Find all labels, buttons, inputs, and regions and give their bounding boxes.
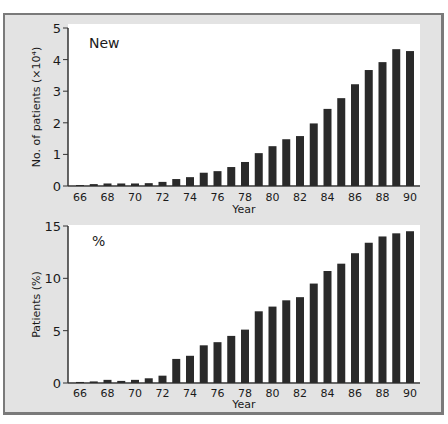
x-tick-label: 72	[156, 387, 170, 400]
bar	[392, 233, 400, 383]
bar	[255, 311, 263, 383]
x-tick-label: 72	[156, 191, 170, 204]
panel-label: %	[92, 233, 105, 249]
bar	[172, 359, 180, 383]
bar	[351, 253, 359, 383]
bar	[324, 271, 332, 383]
bar	[296, 297, 304, 383]
bar	[337, 98, 345, 186]
x-axis-title: Year	[231, 398, 256, 411]
bar	[186, 356, 194, 383]
bar	[392, 49, 400, 186]
bar	[145, 378, 153, 383]
bar	[241, 162, 249, 186]
x-tick-label: 86	[348, 191, 362, 204]
y-axis-title: Patients (%)	[30, 271, 43, 338]
bar	[131, 183, 139, 186]
x-tick-label: 82	[293, 387, 307, 400]
bar	[200, 173, 208, 186]
x-tick-label: 66	[73, 387, 87, 400]
bar	[337, 264, 345, 383]
y-axis-title: No. of patients (×10⁴)	[30, 47, 43, 167]
bar	[172, 179, 180, 186]
x-tick-label: 68	[101, 387, 115, 400]
x-tick-label: 88	[376, 191, 390, 204]
x-tick-label: 90	[403, 387, 417, 400]
x-tick-label: 84	[321, 191, 335, 204]
bar	[310, 123, 318, 186]
y-tick-label: 0	[53, 179, 61, 194]
y-tick-label: 10	[44, 271, 61, 286]
bar	[255, 153, 263, 186]
x-tick-label: 76	[211, 191, 225, 204]
y-tick-label: 3	[53, 84, 61, 99]
bar	[365, 70, 373, 186]
bar	[227, 167, 235, 186]
bar	[310, 284, 318, 383]
new-patients-chart: 01234566687072747678808284868890YearNo. …	[30, 21, 420, 216]
bar	[214, 342, 222, 383]
x-tick-label: 76	[211, 387, 225, 400]
bar	[186, 177, 194, 186]
x-tick-label: 88	[376, 387, 390, 400]
bar	[76, 185, 84, 186]
chart-canvas: 01234566687072747678808284868890YearNo. …	[0, 0, 448, 424]
bar	[269, 146, 277, 186]
bar	[214, 171, 222, 186]
y-tick-label: 4	[53, 53, 61, 68]
bar	[159, 376, 167, 383]
bar	[269, 307, 277, 383]
x-tick-label: 74	[183, 387, 197, 400]
bar	[324, 109, 332, 186]
bar	[200, 345, 208, 383]
x-tick-label: 70	[128, 387, 142, 400]
bar	[379, 62, 387, 186]
bar	[145, 183, 153, 186]
y-tick-label: 0	[53, 376, 61, 391]
bar	[76, 382, 84, 383]
percent-patients-chart: 05101566687072747678808284868890YearPati…	[30, 219, 420, 411]
bar	[104, 380, 112, 383]
x-tick-label: 68	[101, 191, 115, 204]
bar	[159, 182, 167, 186]
bar	[104, 183, 112, 186]
y-tick-label: 5	[53, 324, 61, 339]
x-tick-label: 80	[266, 191, 280, 204]
bar	[131, 380, 139, 383]
bar	[296, 136, 304, 186]
y-tick-label: 15	[44, 219, 61, 234]
bar	[379, 236, 387, 383]
panel-label: New	[89, 35, 120, 51]
bar	[117, 183, 125, 186]
bar	[227, 336, 235, 383]
x-tick-label: 90	[403, 191, 417, 204]
x-tick-label: 86	[348, 387, 362, 400]
x-tick-label: 80	[266, 387, 280, 400]
bar	[241, 330, 249, 383]
x-axis-title: Year	[231, 203, 256, 216]
x-tick-label: 66	[73, 191, 87, 204]
bar	[282, 139, 290, 186]
bar	[117, 381, 125, 383]
y-tick-label: 2	[53, 116, 61, 131]
x-tick-label: 70	[128, 191, 142, 204]
bar	[282, 300, 290, 383]
bar	[351, 84, 359, 186]
bar	[365, 243, 373, 383]
x-tick-label: 84	[321, 387, 335, 400]
bar	[406, 51, 414, 186]
bar	[90, 381, 98, 383]
x-tick-label: 82	[293, 191, 307, 204]
y-tick-label: 1	[53, 147, 61, 162]
bar	[90, 184, 98, 186]
bar	[406, 231, 414, 383]
x-tick-label: 74	[183, 191, 197, 204]
y-tick-label: 5	[53, 21, 61, 36]
